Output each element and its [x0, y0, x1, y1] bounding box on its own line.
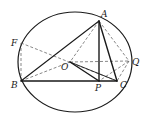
- solid-lines: [21, 21, 117, 81]
- label-C: C: [120, 80, 127, 90]
- label-Q: Q: [132, 57, 140, 67]
- label-P: P: [94, 83, 102, 93]
- circle-outline: [18, 12, 132, 112]
- segment-QC: [117, 61, 129, 81]
- segment-AQ: [99, 21, 129, 61]
- label-F: F: [10, 38, 18, 48]
- dashed-lines: [21, 21, 129, 81]
- label-O: O: [61, 62, 69, 72]
- circumcircle: [18, 12, 132, 112]
- geometry-diagram: A B C O P Q F: [0, 0, 151, 126]
- segment-AO: [70, 21, 99, 62]
- segment-AB: [21, 21, 99, 81]
- label-B: B: [10, 80, 18, 90]
- segment-AC: [99, 21, 117, 81]
- label-A: A: [100, 9, 108, 19]
